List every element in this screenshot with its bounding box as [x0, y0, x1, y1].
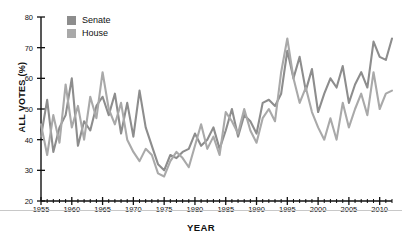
line-chart: ALL VOTES (%) YEAR Senate House 20304050… — [0, 0, 402, 240]
y-tick-label: 70 — [13, 44, 33, 53]
axes-layer — [37, 17, 392, 205]
y-tick-label: 40 — [13, 136, 33, 145]
y-tick-label: 50 — [13, 105, 33, 114]
y-tick-label: 60 — [13, 74, 33, 83]
series-layer — [41, 38, 392, 176]
series-line-senate — [41, 38, 392, 170]
x-axis-title: YEAR — [0, 222, 402, 233]
legend-swatch-senate — [67, 16, 76, 25]
legend-label-house: House — [82, 29, 108, 38]
y-tick-label: 80 — [13, 13, 33, 22]
legend-swatch-house — [67, 29, 76, 38]
y-tick-label: 30 — [13, 166, 33, 175]
plot-area — [0, 0, 402, 240]
chart-legend: Senate House — [67, 16, 111, 42]
legend-item-house: House — [67, 29, 111, 38]
baseline-rule — [0, 210, 402, 211]
legend-label-senate: Senate — [82, 16, 111, 25]
series-line-house — [41, 38, 392, 176]
legend-item-senate: Senate — [67, 16, 111, 25]
